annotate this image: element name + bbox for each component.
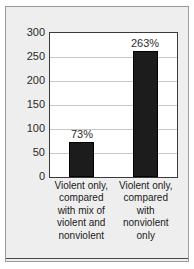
- plot-area: 73% 263%: [49, 32, 178, 178]
- y-tick-label: 0: [6, 171, 45, 182]
- chart-figure: 300 250 200 150 100 50 0 73% 263% Violen…: [5, 6, 189, 262]
- y-tick-label: 300: [6, 27, 45, 38]
- y-tick-label: 150: [6, 99, 45, 110]
- y-tick-label: 250: [6, 51, 45, 62]
- bar-violent-vs-mixed: [69, 142, 94, 177]
- x-tick-label: Violent only, compared with nonviolent o…: [114, 180, 179, 242]
- bar-value-label: 73%: [52, 129, 112, 140]
- bar-value-label: 263%: [115, 38, 175, 49]
- y-axis: 300 250 200 150 100 50 0: [6, 32, 45, 178]
- x-axis: Violent only, compared with mix of viole…: [49, 180, 178, 242]
- footer-rule: [6, 258, 188, 259]
- bar-violent-vs-nonviolent: [133, 51, 158, 177]
- y-tick-label: 50: [6, 147, 45, 158]
- x-tick-label: Violent only, compared with mix of viole…: [49, 180, 114, 242]
- y-tick-label: 100: [6, 123, 45, 134]
- y-tick-label: 200: [6, 75, 45, 86]
